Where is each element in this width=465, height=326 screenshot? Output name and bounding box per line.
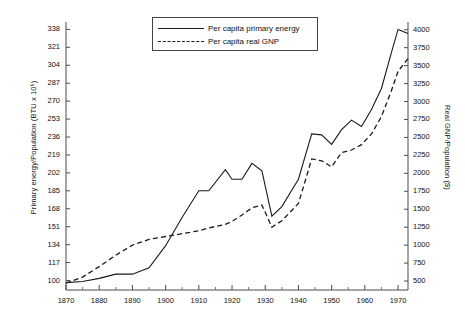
y-axis-left-tick-label: 134 (12, 240, 60, 249)
y-axis-right-tick-label: 2500 (413, 132, 453, 141)
y-axis-right-tick-label: 2000 (413, 168, 453, 177)
y-axis-right-tick-label: 3250 (413, 79, 453, 88)
y-axis-right-tick-label: 1500 (413, 204, 453, 213)
x-axis-tick-label: 1930 (248, 296, 282, 305)
y-axis-right-tick-label: 3000 (413, 97, 453, 106)
legend-entry-real-gnp: Per capita real GNP (158, 35, 312, 48)
x-axis-tick-label: 1870 (49, 296, 83, 305)
series-line-real-gnp (66, 58, 408, 283)
y-axis-right-tick-label: 3750 (413, 43, 453, 52)
y-axis-left-tick-label: 338 (12, 24, 60, 33)
x-axis-tick-label: 1900 (149, 296, 183, 305)
x-axis-tick-label: 1880 (82, 296, 116, 305)
y-axis-right-tick-label: 2750 (413, 114, 453, 123)
series-line-primary-energy (66, 29, 408, 282)
y-axis-right-tick-label: 1750 (413, 186, 453, 195)
y-axis-left-tick-label: 219 (12, 150, 60, 159)
y-axis-left-tick-label: 202 (12, 168, 60, 177)
y-axis-right-tick-label: 4000 (413, 25, 453, 34)
y-axis-left-tick-label: 151 (12, 222, 60, 231)
y-axis-right-tick-label: 1000 (413, 240, 453, 249)
legend-entry-primary-energy: Per capita primary energy (158, 22, 312, 35)
y-axis-left-tick-label: 304 (12, 60, 60, 69)
y-axis-right-tick-label: 500 (413, 276, 453, 285)
x-axis-tick-label: 1890 (115, 296, 149, 305)
y-axis-left-tick-label: 287 (12, 78, 60, 87)
y-axis-right-tick-label: 1250 (413, 222, 453, 231)
y-axis-right-tick-label: 3500 (413, 61, 453, 70)
y-axis-left-tick-label: 185 (12, 186, 60, 195)
y-axis-right-tick-label: 750 (413, 258, 453, 267)
chart-series-lines (66, 29, 408, 283)
x-axis-tick-label: 1960 (348, 296, 382, 305)
x-axis-tick-label: 1950 (315, 296, 349, 305)
x-axis-tick-label: 1910 (182, 296, 216, 305)
y-axis-left-tick-label: 236 (12, 132, 60, 141)
legend-label-primary-energy: Per capita primary energy (204, 24, 300, 33)
x-axis-ticks (66, 285, 398, 290)
axis-spines (66, 22, 408, 290)
legend-label-real-gnp: Per capita real GNP (204, 37, 279, 46)
y-axis-right-ticks (404, 30, 408, 281)
x-axis-tick-label: 1920 (215, 296, 249, 305)
chart-legend: Per capita primary energy Per capita rea… (152, 17, 318, 51)
legend-line-dashed-icon (158, 37, 204, 46)
y-axis-left-tick-label: 168 (12, 204, 60, 213)
y-axis-left-tick-label: 117 (12, 258, 60, 267)
y-axis-left-tick-label: 253 (12, 114, 60, 123)
y-axis-left-tick-label: 321 (12, 42, 60, 51)
legend-line-solid-icon (158, 24, 204, 33)
y-axis-left-ticks (66, 29, 70, 280)
chart-figure: Primary energy/Population (BTU x 10⁶) Re… (0, 0, 465, 326)
x-axis-tick-label: 1970 (381, 296, 415, 305)
y-axis-left-tick-label: 270 (12, 96, 60, 105)
y-axis-right-tick-label: 2250 (413, 150, 453, 159)
y-axis-left-tick-label: 100 (12, 276, 60, 285)
x-axis-tick-label: 1940 (281, 296, 315, 305)
